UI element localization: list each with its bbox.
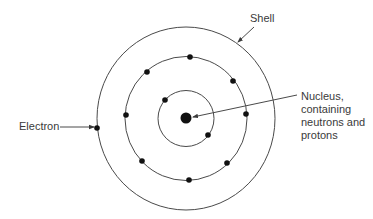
shell-label: Shell (250, 12, 274, 25)
electron-dot (186, 177, 192, 183)
electron-dot (243, 111, 249, 117)
nucleus (181, 113, 192, 124)
nucleus-label-line: Nucleus, (301, 90, 365, 103)
shell-arrow (238, 27, 254, 42)
electrons (94, 54, 249, 183)
nucleus-label-line: neutrons and (301, 116, 365, 129)
nucleus-label-line: protons (301, 129, 365, 142)
label-arrows (60, 27, 297, 127)
electron-dot (94, 125, 100, 131)
electron-dot (162, 97, 168, 103)
nucleus-label-line: containing (301, 103, 365, 116)
electron-label: Electron (19, 120, 59, 133)
nucleus-label: Nucleus, containing neutrons and protons (301, 90, 365, 142)
electron-dot (123, 112, 129, 118)
electron-dot (144, 69, 150, 75)
electron-dot (139, 158, 145, 164)
electron-dot (205, 132, 211, 138)
electron-dot (230, 78, 236, 84)
electron-dot (187, 54, 193, 60)
electron-dot (224, 160, 230, 166)
